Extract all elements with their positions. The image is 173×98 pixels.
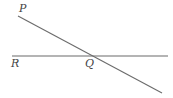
label-p: P	[18, 2, 27, 15]
diagram-canvas: P R Q	[0, 0, 173, 98]
label-q: Q	[85, 57, 94, 70]
label-r: R	[10, 57, 19, 70]
transversal-line-pq	[18, 16, 162, 93]
